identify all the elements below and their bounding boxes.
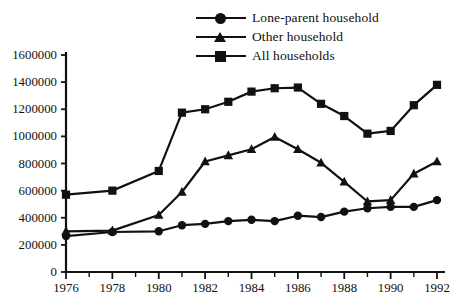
y-axis-tick-label: 400000 [0,210,57,225]
y-axis-tick-label: 1000000 [0,129,57,144]
plot-area [0,0,451,307]
x-axis-tick-label: 1980 [146,281,172,296]
series-all-households [62,81,441,199]
y-axis-tick-label: 1600000 [0,48,57,63]
x-axis-tick-label: 1988 [331,281,357,296]
y-axis-tick-label: 800000 [0,156,57,171]
x-axis-tick-label: 1992 [424,281,450,296]
y-axis-tick-label: 0 [0,265,57,280]
x-axis-tick-label: 1982 [192,281,218,296]
x-axis-tick-label: 1976 [53,281,79,296]
x-axis-tick-label: 1978 [100,281,126,296]
x-axis-tick-label: 1990 [378,281,404,296]
y-axis-tick-label: 200000 [0,237,57,252]
x-axis-tick-label: 1986 [285,281,311,296]
x-axis-tick-label: 1984 [239,281,265,296]
y-axis-tick-label: 600000 [0,183,57,198]
series-lone-parent-household [62,196,441,240]
y-axis-tick-label: 1400000 [0,75,57,90]
chart-figure: Lone-parent household Other household Al… [0,0,451,307]
y-axis-tick-label: 1200000 [0,102,57,117]
